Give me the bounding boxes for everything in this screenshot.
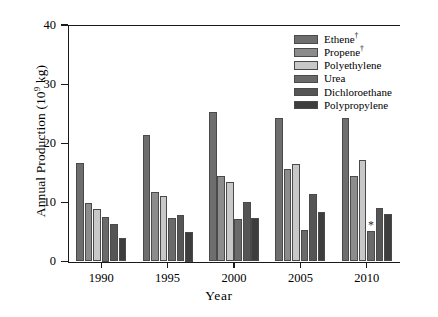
legend-swatch-icon <box>294 35 318 44</box>
legend-label: Polypropylene <box>324 100 388 111</box>
x-axis-tick <box>167 262 168 268</box>
bar <box>367 231 375 262</box>
bar <box>185 232 193 262</box>
x-axis-tick <box>300 262 301 268</box>
legend-swatch-icon <box>294 61 318 70</box>
x-axis-tick-label: 2005 <box>265 272 335 285</box>
y-axis-tick-label: 40 <box>10 19 56 32</box>
chart-legend: Ethene†Propene†PolyethyleneUreaDichloroe… <box>294 33 392 112</box>
legend-label: Urea <box>324 73 345 84</box>
bar <box>292 164 300 262</box>
bar-annotation-asterisk: * <box>368 219 374 231</box>
bar <box>151 192 159 261</box>
bar <box>309 194 317 261</box>
legend-label: Dichloroethane <box>324 87 392 98</box>
bar <box>275 118 283 261</box>
bar <box>102 217 110 261</box>
legend-item-propene[interactable]: Propene† <box>294 46 392 59</box>
x-axis-tick-label: 1995 <box>133 272 203 285</box>
bar <box>209 112 217 262</box>
legend-item-ethene[interactable]: Ethene† <box>294 33 392 46</box>
y-axis-tick-label: 0 <box>10 255 56 268</box>
bar <box>384 214 392 262</box>
bar <box>110 224 118 261</box>
bar <box>177 215 185 262</box>
y-axis-tick <box>61 202 68 203</box>
legend-label: Polyethylene <box>324 60 381 71</box>
legend-item-dichloroethane[interactable]: Dichloroethane <box>294 86 392 99</box>
bar <box>376 208 384 261</box>
bar <box>217 176 225 262</box>
x-axis-tick <box>366 262 367 268</box>
x-axis-tick-label: 1990 <box>66 272 136 285</box>
chart-figure: Annual Production (109 kg) 010203040 199… <box>0 0 438 317</box>
y-axis-tick <box>61 261 68 262</box>
bar <box>168 218 176 262</box>
bar <box>160 196 168 261</box>
legend-swatch-icon <box>294 101 318 110</box>
legend-item-polyethylene[interactable]: Polyethylene <box>294 59 392 72</box>
bar <box>301 230 309 262</box>
y-axis-tick <box>61 143 68 144</box>
legend-item-polypropylene[interactable]: Polypropylene <box>294 99 392 112</box>
legend-swatch-icon <box>294 88 318 97</box>
x-axis-tick <box>101 262 102 268</box>
bar <box>76 163 84 261</box>
x-axis-tick-label: 2010 <box>332 272 402 285</box>
legend-label: Ethene† <box>324 34 358 45</box>
bar <box>234 219 242 262</box>
x-axis-title: Year <box>0 288 438 304</box>
bar <box>226 182 234 262</box>
bar <box>350 176 358 261</box>
bar <box>85 203 93 262</box>
legend-swatch-icon <box>294 48 318 57</box>
legend-label: Propene† <box>324 47 364 58</box>
bar <box>318 212 326 262</box>
bar <box>243 202 251 262</box>
bar <box>342 118 350 261</box>
bar <box>119 238 127 261</box>
legend-item-urea[interactable]: Urea <box>294 73 392 86</box>
y-axis-tick <box>61 84 68 85</box>
bar <box>143 135 151 262</box>
y-axis-tick-label: 10 <box>10 196 56 209</box>
legend-swatch-icon <box>294 75 318 84</box>
bar <box>251 218 259 261</box>
y-axis-tick-label: 30 <box>10 78 56 91</box>
x-axis-tick-label: 2000 <box>199 272 269 285</box>
legend-label-superscript: † <box>360 44 364 53</box>
legend-label-superscript: † <box>355 31 359 40</box>
bar <box>93 209 101 262</box>
x-axis-tick <box>233 262 234 268</box>
bar <box>284 169 292 262</box>
bar <box>359 160 367 262</box>
y-axis-tick <box>61 24 68 25</box>
y-axis-tick-label: 20 <box>10 137 56 150</box>
